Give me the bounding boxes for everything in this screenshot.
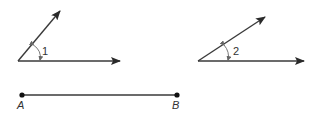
point-a-dot-icon	[19, 92, 24, 97]
angle-1-label: 1	[42, 45, 48, 57]
figure-svg: 1 2 A B	[0, 0, 319, 121]
point-a-label: A	[16, 99, 24, 111]
angle-2-label: 2	[233, 45, 239, 57]
angle-1: 1	[18, 11, 120, 61]
point-b-dot-icon	[174, 92, 179, 97]
angle-1-upper-ray	[18, 11, 60, 61]
angle-2: 2	[198, 17, 304, 61]
point-b-label: B	[172, 99, 179, 111]
geometry-figure: 1 2 A B	[0, 0, 319, 121]
segment-ab: A B	[16, 92, 180, 111]
angle-2-arc-icon	[224, 45, 229, 60]
angle-1-arc-icon	[34, 45, 41, 60]
angle-2-upper-ray	[198, 17, 265, 61]
